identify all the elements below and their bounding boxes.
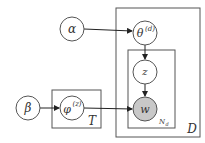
w-label: w xyxy=(140,103,150,116)
plate-n-subscript: d xyxy=(165,121,168,127)
node-z: z xyxy=(133,60,157,84)
phi-superscript: (z) xyxy=(72,100,81,108)
beta-label: β xyxy=(24,101,32,115)
node-w: w xyxy=(133,97,157,121)
phi-label: φ xyxy=(63,103,71,116)
theta-superscript: (d) xyxy=(145,25,155,33)
theta-label: θ xyxy=(137,27,144,40)
node-phi: φ (z) xyxy=(60,96,84,120)
edge-alpha-theta xyxy=(84,29,132,31)
z-label: z xyxy=(141,66,148,77)
edge-phi-w xyxy=(84,108,132,109)
node-alpha: α xyxy=(60,17,84,41)
plate-t-label: T xyxy=(88,114,97,128)
alpha-label: α xyxy=(68,22,76,36)
node-theta: θ (d) xyxy=(133,21,157,45)
node-beta: β xyxy=(16,96,40,120)
lda-plate-diagram: α θ (d) z w β φ (z) D N d T xyxy=(0,0,205,143)
plate-d-label: D xyxy=(186,122,197,136)
